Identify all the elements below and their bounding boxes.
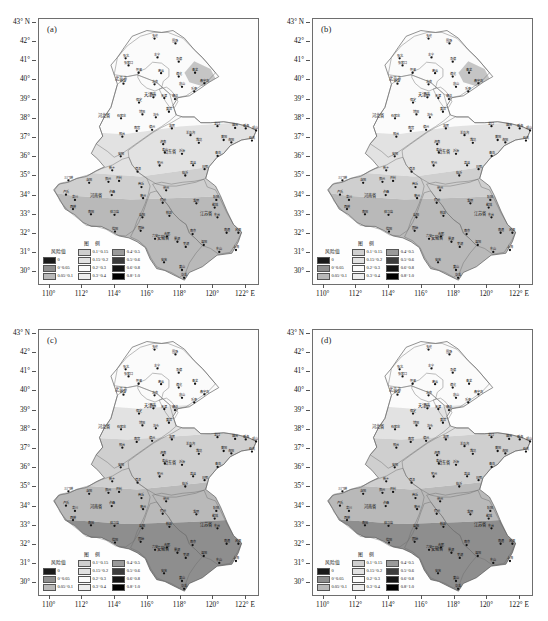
station-label: 惠民: [443, 123, 449, 128]
station-label: 蚌埠: [440, 210, 446, 215]
station-label: 围场: [446, 349, 452, 354]
station-dot: [362, 182, 364, 184]
legend-label: 0.5~0.6: [127, 258, 140, 262]
station-label: 东山: [216, 557, 222, 562]
legend-title: 风险值: [43, 561, 73, 566]
station-label: 塘沽: [446, 404, 452, 409]
y-tick: [32, 410, 36, 411]
y-tick: [306, 506, 310, 507]
legend-label: 0.4~0.5: [401, 561, 414, 565]
legend-title: 风险值: [43, 250, 73, 255]
y-tick-label: 41°: [294, 56, 304, 64]
station-label: 济南: [160, 139, 166, 144]
x-tick: [323, 284, 324, 288]
station-label: 洛阳: [86, 488, 92, 493]
station-label: 沂源: [453, 459, 459, 464]
station-label: 芜湖: [457, 552, 463, 557]
station-label: 乐亭: [191, 397, 197, 402]
station-label: 唐山: [179, 81, 185, 86]
station-label: 阜阳: [413, 523, 419, 528]
station-dot: [490, 436, 492, 438]
station-label: 围场: [172, 349, 178, 354]
station-label: 溧阳: [475, 550, 481, 555]
station-dot: [455, 397, 457, 399]
panel-c: 多伦张北张家口丰宁承德围场青龙怀来密云遵化秦皇岛蔚县北京霸州唐山乐亭塘沽天津保定…: [0, 311, 274, 621]
station-dot: [90, 524, 92, 526]
station-dot: [436, 143, 438, 145]
station-label: 沂源: [179, 148, 185, 153]
station-label: 商丘: [412, 492, 418, 497]
station-dot: [414, 497, 416, 499]
station-dot: [235, 560, 237, 562]
station-dot: [432, 475, 434, 477]
station-dot: [216, 155, 218, 157]
station-label: 盐城: [486, 202, 492, 207]
x-tick-label: 110°: [316, 601, 329, 609]
legend-swatch: [43, 568, 56, 575]
station-dot: [497, 139, 499, 141]
station-dot: [245, 127, 247, 129]
legend-row: 0.8~1.0: [112, 584, 140, 591]
station-dot: [416, 508, 418, 510]
y-tick-label: 43° N: [287, 329, 304, 337]
station-dot: [472, 142, 474, 144]
station-dot: [230, 141, 232, 143]
legend-swatch: [78, 273, 91, 280]
station-dot: [492, 251, 494, 253]
legend-row: 0.6~0.8: [112, 265, 140, 272]
station-dot: [122, 394, 124, 396]
province-label: 安徽省: [157, 234, 169, 241]
station-label: 青龙: [192, 378, 198, 383]
station-dot: [160, 72, 162, 74]
station-dot: [381, 492, 383, 494]
station-dot: [65, 505, 67, 507]
station-label: 射阳: [213, 505, 219, 510]
station-label: 商丘: [412, 181, 418, 186]
x-tick: [355, 284, 356, 288]
station-label: 兖州: [157, 160, 163, 165]
y-tick-label: 36°: [294, 152, 304, 160]
station-dot: [214, 206, 216, 208]
station-label: 西峡: [344, 204, 350, 209]
panel-label-a: (a): [47, 24, 57, 34]
station-label: 信阳: [386, 226, 392, 231]
station-dot: [415, 424, 417, 426]
station-label: 潍坊: [196, 137, 202, 142]
station-label: 盐城: [212, 513, 218, 518]
station-dot: [178, 371, 180, 373]
legend-row: 0.3~0.4: [78, 584, 108, 591]
station-dot: [452, 371, 454, 373]
station-dot: [74, 199, 76, 201]
station-dot: [388, 230, 390, 232]
station-label: 成山头: [252, 436, 258, 441]
station-dot: [465, 233, 467, 235]
station-dot: [508, 438, 510, 440]
station-dot: [490, 466, 492, 468]
risk-band: [313, 19, 532, 134]
y-tick-label: 37°: [20, 444, 30, 452]
legend-label: 0: [332, 569, 334, 573]
legend-swatch: [78, 568, 91, 575]
station-label: 日照: [202, 476, 208, 480]
station-label: 张北: [397, 53, 404, 58]
station-label: 怀来: [136, 378, 142, 383]
y-tick-label: 38°: [294, 425, 304, 433]
station-label: 青岛: [215, 461, 221, 466]
station-label: 日照: [476, 165, 482, 169]
station-label: 安庆: [435, 568, 441, 573]
y-tick-label: 40°: [20, 386, 30, 394]
station-label: 固始: [412, 536, 418, 541]
station-label: 海阳: [228, 137, 234, 142]
y-axis: 43° N42°41°40°39°38°37°36°35°34°33°32°31…: [0, 18, 36, 283]
station-dot: [394, 155, 396, 157]
station-dot: [121, 447, 123, 449]
legend-swatch: [386, 576, 399, 583]
y-tick: [32, 252, 36, 253]
station-label: 开封: [116, 175, 122, 180]
y-tick: [306, 214, 310, 215]
station-dot: [111, 194, 113, 196]
station-dot: [412, 101, 414, 103]
station-label: 南宫: [408, 125, 414, 130]
station-label: 南京: [464, 539, 470, 544]
station-dot: [216, 466, 218, 468]
